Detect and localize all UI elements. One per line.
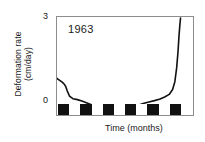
scale-bar-segment [147,104,158,115]
scale-bar-segment [125,104,136,115]
x-axis-label: Time (months) [105,123,163,133]
scale-bar-segment [181,104,192,115]
month-scale-bar [58,104,192,115]
scale-bar-segment [69,104,80,115]
scale-bar-segment [103,104,114,115]
y-axis-label-line2: (cm/day) [23,32,33,97]
y-tick-label-3: 3 [34,12,48,21]
scale-bar-segment [92,104,103,115]
y-axis-label: Deformation rate (cm/day) [12,16,34,112]
scale-bar-segment [80,104,91,115]
annotation-year: 1963 [68,23,94,35]
scale-bar-segment [170,104,181,115]
figure-deformation-rate: Deformation rate (cm/day) 3 0 1963 Time … [0,0,205,142]
scale-bar-segment [136,104,147,115]
y-axis-label-line1: Deformation rate [13,32,23,97]
y-tick-label-0: 0 [34,96,48,105]
scale-bar-segment [159,104,170,115]
scale-bar-segment [114,104,125,115]
scale-bar-segment [58,104,69,115]
